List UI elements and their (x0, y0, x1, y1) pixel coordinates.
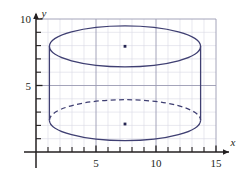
x-tick-label-10: 10 (151, 157, 163, 169)
y-axis-label: y (41, 7, 47, 19)
figure-canvas: 5 10 15 5 10 x y (0, 0, 249, 175)
x-tick-label-5: 5 (93, 157, 99, 169)
x-tick-label-15: 15 (211, 157, 223, 169)
y-axis-arrowhead (33, 13, 39, 20)
bottom-center-point (124, 123, 127, 126)
axes (24, 13, 229, 169)
top-center-point (124, 45, 127, 48)
cylinder-plot-svg: 5 10 15 5 10 x y (0, 0, 249, 175)
y-tick-label-10: 10 (20, 13, 32, 25)
y-tick-label-5: 5 (26, 80, 32, 92)
x-axis-arrowhead (223, 149, 229, 155)
x-axis-label: x (230, 136, 236, 148)
